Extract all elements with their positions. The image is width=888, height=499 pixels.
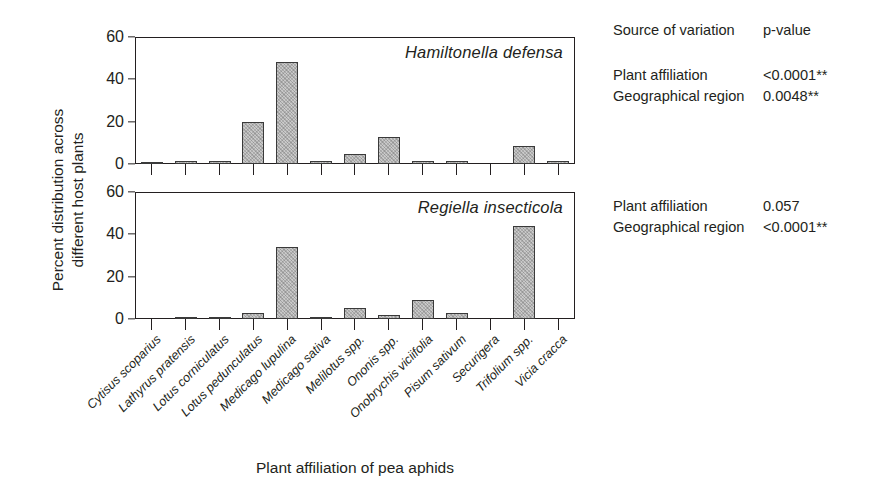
stats-pvalue-top-1: 0.0048** <box>763 86 819 107</box>
stats-table-top: Plant affiliation<0.0001**Geographical r… <box>613 65 828 107</box>
stats-row-bottom-1: Geographical region<0.0001** <box>613 217 828 238</box>
species-label-bottom: Regiella insecticola <box>418 198 563 217</box>
bar-slot <box>203 192 237 319</box>
x-tick-3 <box>253 164 254 175</box>
stats-row-top-1: Geographical region0.0048** <box>613 86 828 107</box>
x-tick-slot <box>169 164 203 176</box>
x-tick-2 <box>219 164 220 175</box>
x-tick-slot <box>541 164 575 176</box>
stats-source-top-0: Plant affiliation <box>613 65 763 86</box>
bar-slot <box>270 37 304 164</box>
stats-source-top-1: Geographical region <box>613 86 763 107</box>
bar-top-3 <box>242 122 264 164</box>
bar-bottom-6 <box>344 308 366 319</box>
y-axis-title: Percent distribution across different ho… <box>48 40 88 360</box>
x-tick-slot <box>203 319 237 331</box>
x-tick-0 <box>151 319 152 330</box>
x-tick-slot <box>304 164 338 176</box>
x-tick-12 <box>558 319 559 330</box>
x-tick-slot <box>507 319 541 331</box>
bar-slot <box>304 37 338 164</box>
y-tick-label-60: 60 <box>106 29 124 45</box>
x-tick-11 <box>524 319 525 330</box>
y-tick-label-20: 20 <box>106 269 124 285</box>
bar-bottom-11 <box>513 226 535 319</box>
stats-header-source: Source of variation <box>613 20 763 41</box>
y-tick-20 <box>128 121 135 122</box>
bar-slot <box>135 37 169 164</box>
x-tick-slot <box>406 164 440 176</box>
x-tick-slot <box>372 319 406 331</box>
x-tick-8 <box>422 319 423 330</box>
stats-row-bottom-0: Plant affiliation0.057 <box>613 196 828 217</box>
stats-table-bottom: Plant affiliation0.057Geographical regio… <box>613 196 828 238</box>
x-tick-group-bottom <box>135 319 575 331</box>
y-tick-label-60: 60 <box>106 184 124 200</box>
x-tick-11 <box>524 164 525 175</box>
stats-pvalue-bottom-0: 0.057 <box>763 196 800 217</box>
bar-top-6 <box>344 154 366 164</box>
x-tick-slot <box>237 319 271 331</box>
x-tick-slot <box>237 164 271 176</box>
y-tick-40 <box>128 79 135 80</box>
x-tick-10 <box>490 319 491 330</box>
y-tick-60 <box>128 191 135 192</box>
x-tick-slot <box>338 319 372 331</box>
bar-slot <box>372 37 406 164</box>
x-tick-7 <box>388 319 389 330</box>
x-tick-slot <box>440 164 474 176</box>
y-tick-20 <box>128 276 135 277</box>
x-tick-10 <box>490 164 491 175</box>
x-tick-slot <box>338 164 372 176</box>
x-tick-0 <box>151 164 152 175</box>
bar-slot <box>169 192 203 319</box>
x-tick-slot <box>304 319 338 331</box>
x-tick-slot <box>473 164 507 176</box>
x-tick-4 <box>287 164 288 175</box>
bar-slot <box>169 37 203 164</box>
stats-row-top-0: Plant affiliation<0.0001** <box>613 65 828 86</box>
stats-source-bottom-0: Plant affiliation <box>613 196 763 217</box>
stats-pvalue-top-0: <0.0001** <box>763 65 828 86</box>
stats-header-pvalue: p-value <box>763 20 811 41</box>
x-tick-slot <box>473 319 507 331</box>
y-tick-label-40: 40 <box>106 226 124 242</box>
x-tick-slot <box>440 319 474 331</box>
y-tick-label-40: 40 <box>106 71 124 87</box>
bar-slot <box>270 192 304 319</box>
bar-top-4 <box>276 62 298 164</box>
bar-slot <box>135 192 169 319</box>
y-tick-0 <box>128 318 135 319</box>
x-tick-slot <box>541 319 575 331</box>
stats-pvalue-bottom-1: <0.0001** <box>763 217 828 238</box>
bar-slot <box>338 37 372 164</box>
bar-slot <box>338 192 372 319</box>
x-tick-7 <box>388 164 389 175</box>
bar-slot <box>237 192 271 319</box>
x-tick-9 <box>456 319 457 330</box>
x-tick-6 <box>354 164 355 175</box>
x-tick-slot <box>270 319 304 331</box>
figure-canvas: Percent distribution across different ho… <box>0 0 888 499</box>
x-tick-slot <box>169 319 203 331</box>
bar-bottom-8 <box>412 300 434 319</box>
x-tick-9 <box>456 164 457 175</box>
y-tick-0 <box>128 163 135 164</box>
x-tick-12 <box>558 164 559 175</box>
panel-regiella-insecticola: 0204060 Regiella insecticola <box>135 192 575 319</box>
x-tick-slot <box>507 164 541 176</box>
x-tick-slot <box>135 319 169 331</box>
species-label-top: Hamiltonella defensa <box>405 43 563 62</box>
x-tick-slot <box>372 164 406 176</box>
x-tick-2 <box>219 319 220 330</box>
bar-top-7 <box>378 137 400 164</box>
bar-slot <box>372 192 406 319</box>
x-tick-5 <box>321 164 322 175</box>
bar-slot <box>203 37 237 164</box>
y-tick-40 <box>128 234 135 235</box>
bar-top-11 <box>513 146 535 164</box>
x-axis-title: Plant affiliation of pea aphids <box>135 459 575 477</box>
stats-header-row: Source of variation p-value <box>613 20 811 41</box>
x-tick-3 <box>253 319 254 330</box>
y-tick-label-20: 20 <box>106 114 124 130</box>
